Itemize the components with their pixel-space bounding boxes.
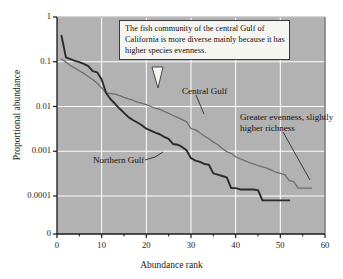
callout-annotation: The fish community of the central Gulf o… [119, 20, 290, 60]
series-label-northern-gulf: Northern Gulf [93, 155, 144, 165]
annotation-richness-note: Greater evenness, slightly higher richne… [240, 112, 340, 133]
y-axis-title: Proportional abundance [12, 55, 22, 175]
chart-figure: Proportional abundance Abundance rank Th… [0, 0, 343, 279]
x-tick-label: 20 [131, 240, 161, 250]
y-tick-label: 0.1 [3, 56, 51, 66]
x-axis-title: Abundance rank [0, 260, 343, 270]
series-label-central-gulf: Central Gulf [182, 86, 227, 96]
y-tick-label: 1 [3, 11, 51, 21]
x-tick-label: 10 [87, 240, 117, 250]
x-tick-label: 30 [176, 240, 206, 250]
y-tick-label: 0.01 [3, 101, 51, 111]
x-tick-label: 60 [310, 240, 340, 250]
x-tick-label: 50 [265, 240, 295, 250]
y-tick-label: 0.001 [3, 145, 51, 155]
y-tick-label: 0.0001 [3, 190, 51, 200]
y-tick-label-zero: 0 [3, 228, 51, 238]
x-tick-label: 40 [221, 240, 251, 250]
x-tick-label: 0 [42, 240, 72, 250]
